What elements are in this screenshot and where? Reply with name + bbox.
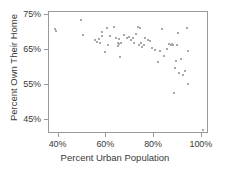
data-point (187, 50, 189, 52)
x-tick-mark (153, 133, 154, 137)
data-point (173, 92, 175, 94)
data-point (139, 27, 141, 29)
data-point (113, 26, 115, 28)
data-point (135, 33, 137, 35)
data-point (128, 36, 130, 38)
scatter-points-layer (49, 12, 207, 132)
y-tick-label: 75% (23, 9, 41, 19)
data-point (202, 129, 204, 131)
data-point (151, 47, 153, 49)
scatter-plot-figure: 40%60%80%100%45%55%65%75% Percent Urban … (0, 0, 230, 171)
x-tick-mark (105, 133, 106, 137)
data-point (186, 27, 188, 29)
data-point (141, 46, 143, 48)
data-point (176, 44, 178, 46)
x-tick-label: 80% (144, 139, 162, 149)
data-point (101, 35, 103, 37)
data-point (109, 35, 111, 37)
data-point (172, 44, 174, 46)
data-point (120, 42, 122, 44)
plot-frame (48, 11, 208, 133)
y-tick-mark (44, 14, 48, 15)
y-tick-mark (44, 84, 48, 85)
x-axis-label: Percent Urban Population (0, 152, 230, 163)
y-tick-label: 55% (23, 79, 41, 89)
y-tick-label: 45% (23, 114, 41, 124)
data-point (182, 74, 184, 76)
data-point (163, 55, 165, 57)
x-tick-label: 100% (190, 139, 213, 149)
x-tick-mark (58, 133, 59, 137)
data-point (184, 70, 186, 72)
data-point (138, 44, 140, 46)
data-point (99, 42, 101, 44)
data-point (175, 60, 177, 62)
data-point (82, 34, 84, 36)
data-point (187, 83, 189, 85)
data-point (166, 48, 168, 50)
data-point (140, 42, 142, 44)
y-tick-mark (44, 49, 48, 50)
data-point (143, 44, 145, 46)
data-point (178, 72, 180, 74)
data-point (157, 61, 159, 63)
y-axis-label: Percent Own Their Home (8, 3, 19, 133)
data-point (119, 56, 121, 58)
data-point (133, 42, 135, 44)
data-point (177, 32, 179, 34)
x-tick-label: 40% (49, 139, 67, 149)
data-point (132, 37, 134, 39)
data-point (80, 19, 82, 21)
data-point (107, 44, 109, 46)
data-point (149, 40, 151, 42)
data-point (118, 38, 120, 40)
y-tick-label: 65% (23, 44, 41, 54)
data-point (159, 50, 161, 52)
data-point (98, 38, 100, 40)
data-point (123, 34, 125, 36)
data-point (55, 30, 57, 32)
data-point (144, 37, 146, 39)
data-point (180, 58, 182, 60)
data-point (96, 41, 98, 43)
data-point (161, 28, 163, 30)
x-tick-label: 60% (96, 139, 114, 149)
x-tick-mark (201, 133, 202, 137)
data-point (106, 27, 108, 29)
data-point (117, 45, 119, 47)
data-point (104, 51, 106, 53)
y-tick-mark (44, 119, 48, 120)
data-point (101, 31, 103, 33)
data-point (174, 67, 176, 69)
data-point (154, 49, 156, 51)
